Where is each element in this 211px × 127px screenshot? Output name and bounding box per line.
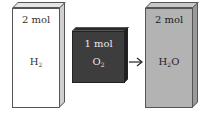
o2-block: 1 mol O2	[72, 31, 129, 84]
h2-block-front-face: 2 mol H2	[12, 8, 60, 108]
o2-amount-label: 1 mol	[73, 39, 124, 49]
h2o-formula-label: H2O	[146, 57, 192, 67]
o2-formula-subscript: 2	[101, 61, 105, 68]
o2-formula-label: O2	[73, 57, 124, 67]
h2o-block-side-face	[192, 2, 198, 108]
h2-formula-label: H2	[13, 57, 59, 67]
o2-block-front-face: 1 mol O2	[72, 31, 125, 83]
o2-formula-main: O	[92, 56, 100, 67]
h2o-formula-tail: O	[171, 56, 179, 67]
h2-formula-subscript: 2	[38, 61, 42, 68]
h2o-block: 2 mol H2O	[145, 8, 199, 109]
h2-block: 2 mol H2	[12, 8, 66, 109]
h2o-block-front-face: 2 mol H2O	[145, 8, 193, 108]
h2o-amount-label: 2 mol	[146, 15, 192, 25]
h2-amount-label: 2 mol	[13, 15, 59, 25]
h2-block-side-face	[59, 2, 65, 108]
reaction-arrow-icon	[128, 53, 144, 65]
